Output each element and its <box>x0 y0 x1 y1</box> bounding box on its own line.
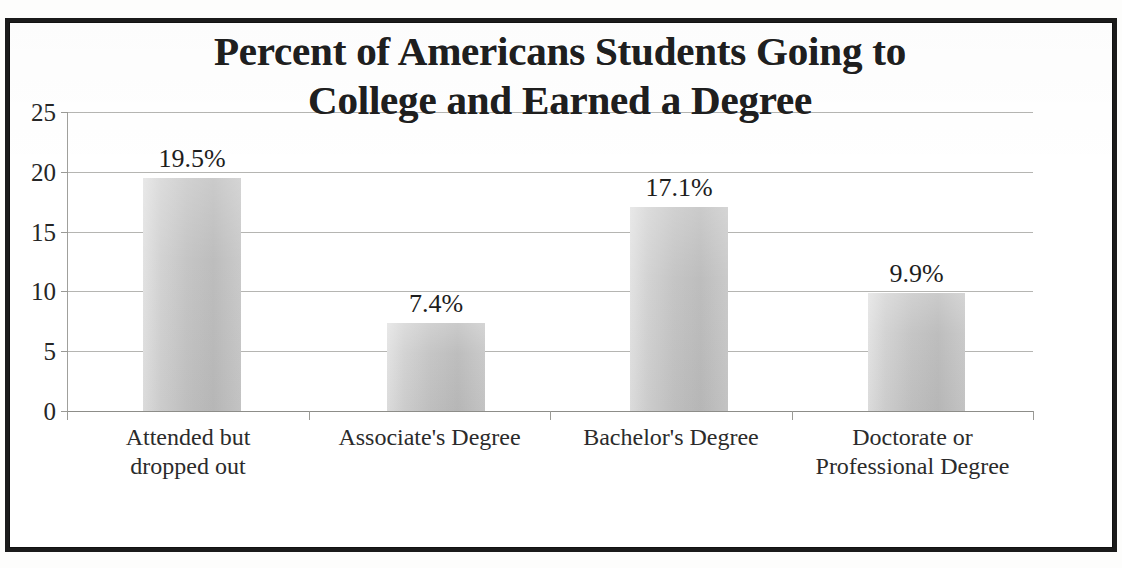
category-tick-1 <box>309 411 310 420</box>
category-label-line-2: dropped out <box>67 452 309 481</box>
scan-text-fragment-top <box>120 0 900 12</box>
bar-value-label-2: 7.4% <box>387 289 485 319</box>
bar-value-label-3: 17.1% <box>630 173 728 203</box>
category-label-line-1: Attended but <box>67 423 309 452</box>
category-label-attended-but-dropped-out: Attended but dropped out <box>67 423 309 481</box>
category-tick-4 <box>1033 411 1034 420</box>
chart-frame-border: Percent of Americans Students Going to C… <box>5 18 1117 552</box>
scanned-page: Percent of Americans Students Going to C… <box>0 0 1122 568</box>
y-axis-line <box>67 112 68 411</box>
y-tick-label-5: 5 <box>44 339 57 364</box>
chart-title-line-2: College and Earned a Degree <box>70 76 1050 125</box>
plot-area: 19.5% 7.4% 17.1% 9.9% <box>67 112 1033 411</box>
category-label-line-1: Doctorate or <box>792 423 1033 452</box>
y-axis-tick-labels: 0 5 10 15 20 25 <box>10 112 62 411</box>
y-tick-label-0: 0 <box>44 399 57 424</box>
y-tick-label-20: 20 <box>31 159 56 184</box>
category-tick-2 <box>550 411 551 420</box>
category-tick-3 <box>792 411 793 420</box>
y-tick-label-25: 25 <box>31 100 56 125</box>
y-tick-mark-20 <box>61 172 68 173</box>
bar-value-label-4: 9.9% <box>868 259 965 289</box>
category-label-associates-degree: Associate's Degree <box>309 423 550 452</box>
chart-title-line-1: Percent of Americans Students Going to <box>70 27 1050 76</box>
category-label-line-2: Professional Degree <box>792 452 1033 481</box>
category-label-bachelors-degree: Bachelor's Degree <box>550 423 792 452</box>
category-label-line-1: Bachelor's Degree <box>550 423 792 452</box>
scan-text-fragment-bottom <box>8 556 428 568</box>
bar-bachelors-degree[interactable] <box>630 207 728 412</box>
y-tick-label-10: 10 <box>31 279 56 304</box>
bar-doctorate-or-professional-degree[interactable] <box>868 293 965 411</box>
chart-title: Percent of Americans Students Going to C… <box>70 27 1050 125</box>
y-tick-label-15: 15 <box>31 219 56 244</box>
bar-associates-degree[interactable] <box>387 323 485 412</box>
category-label-line-1: Associate's Degree <box>309 423 550 452</box>
bar-value-label-1: 19.5% <box>143 144 241 174</box>
y-tick-mark-25 <box>61 112 68 113</box>
bar-attended-but-dropped-out[interactable] <box>143 178 241 411</box>
y-tick-mark-15 <box>61 232 68 233</box>
y-tick-mark-10 <box>61 291 68 292</box>
chart-canvas: Percent of Americans Students Going to C… <box>10 23 1112 547</box>
category-tick-0 <box>67 411 68 420</box>
y-tick-mark-5 <box>61 351 68 352</box>
category-label-doctorate-or-professional-degree: Doctorate or Professional Degree <box>792 423 1033 481</box>
